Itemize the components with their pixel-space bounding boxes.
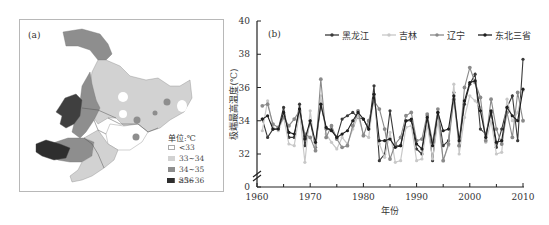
legend-label: 黑龙江	[342, 30, 369, 41]
data-point	[378, 139, 381, 142]
x-tick-label: 1990	[405, 192, 428, 202]
x-tick-label: 1970	[299, 192, 322, 202]
data-point	[287, 142, 290, 145]
data-point	[314, 141, 317, 144]
data-point	[341, 117, 344, 120]
data-point	[324, 135, 328, 139]
data-point	[388, 131, 391, 134]
data-point	[479, 109, 482, 112]
legend-item: 东北三省	[478, 30, 531, 41]
data-point	[367, 127, 370, 130]
data-point	[351, 111, 354, 114]
data-point	[319, 77, 323, 81]
data-point	[511, 114, 514, 117]
data-point	[341, 136, 344, 139]
data-point	[341, 132, 344, 135]
data-point	[372, 84, 375, 87]
data-point	[298, 108, 301, 111]
line-chart: 03234363840 196019701980199020002010 (b)…	[0, 0, 549, 225]
data-point	[388, 109, 391, 112]
legend-item: 吉林	[382, 30, 417, 41]
data-point	[510, 135, 514, 139]
y-tick-label: 36	[239, 83, 251, 93]
x-tick-label: 2000	[458, 192, 481, 202]
data-point	[500, 151, 503, 154]
data-point	[330, 124, 334, 128]
data-point	[431, 144, 434, 147]
data-point	[404, 119, 407, 122]
data-point	[415, 159, 418, 162]
data-point	[495, 127, 499, 131]
data-point	[346, 129, 349, 132]
data-point	[458, 139, 461, 142]
data-point	[436, 111, 439, 114]
data-point	[346, 144, 350, 148]
data-point	[378, 159, 381, 162]
data-point	[377, 107, 381, 111]
data-point	[516, 91, 520, 95]
data-point	[372, 93, 375, 96]
data-point	[463, 116, 466, 119]
panel-b-label: (b)	[268, 29, 281, 39]
data-point	[335, 136, 338, 139]
data-point	[463, 99, 466, 102]
data-point	[266, 102, 270, 106]
data-point	[383, 156, 386, 159]
data-point	[399, 144, 402, 147]
data-point	[346, 114, 349, 117]
data-point	[271, 127, 274, 130]
legend-marker	[330, 33, 333, 36]
data-point	[378, 142, 381, 145]
data-point	[468, 94, 471, 97]
data-point	[511, 119, 514, 122]
data-point	[447, 142, 451, 146]
data-point	[277, 127, 280, 130]
data-point	[388, 137, 391, 140]
data-point	[489, 109, 492, 112]
data-point	[442, 129, 445, 132]
legend-marker	[483, 33, 486, 36]
data-point	[292, 117, 296, 121]
y-tick-label: 0	[244, 182, 250, 192]
data-point	[308, 135, 312, 139]
data-point	[489, 97, 493, 101]
data-point	[266, 99, 269, 102]
data-point	[500, 142, 504, 146]
data-point	[351, 119, 354, 122]
data-point	[367, 136, 370, 139]
data-point	[463, 86, 467, 90]
data-point	[479, 96, 483, 100]
data-point	[431, 157, 434, 160]
data-point	[266, 114, 269, 117]
legend-marker	[435, 33, 438, 36]
data-point	[314, 149, 318, 153]
data-point	[394, 146, 397, 149]
data-point	[383, 139, 386, 142]
legend-item: 辽宁	[430, 30, 465, 41]
data-point	[409, 111, 413, 115]
y-tick-label: 38	[239, 49, 251, 59]
data-point	[484, 136, 487, 139]
data-point	[521, 58, 524, 61]
data-point	[521, 88, 524, 91]
y-tick-label: 40	[239, 16, 251, 26]
data-point	[484, 139, 488, 143]
data-point	[362, 134, 366, 138]
y-axis-title: 极端最高温度(℃)	[228, 68, 239, 139]
data-point	[521, 119, 525, 123]
data-point	[479, 127, 482, 130]
data-point	[282, 106, 285, 109]
data-point	[362, 117, 365, 120]
data-point	[309, 119, 312, 122]
data-point	[474, 99, 477, 102]
data-point	[383, 127, 387, 131]
data-point	[303, 161, 306, 164]
data-point	[468, 66, 472, 70]
data-point	[388, 157, 392, 161]
data-point	[410, 117, 413, 120]
data-point	[426, 116, 429, 119]
data-point	[425, 112, 429, 116]
data-point	[330, 141, 333, 144]
y-tick-label: 34	[239, 116, 251, 126]
legend-label: 辽宁	[447, 30, 465, 41]
